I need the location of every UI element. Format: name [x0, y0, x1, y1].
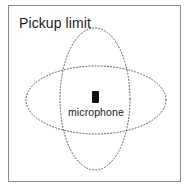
microphone-icon	[92, 91, 99, 103]
microphone-label: microphone	[68, 106, 124, 118]
pickup-limit-figure: Pickup limit microphone	[0, 0, 190, 194]
pickup-limit-title: Pickup limit	[19, 15, 91, 31]
